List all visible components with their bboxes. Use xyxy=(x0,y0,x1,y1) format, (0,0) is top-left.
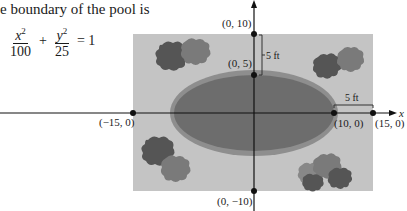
point-bottom xyxy=(251,188,257,194)
point-right xyxy=(370,110,376,116)
label-pool-right: (10, 0) xyxy=(334,117,364,130)
pool-diagram: 5 ft 5 ft (0, 10) (0, 5) (−15, 0) (10, 0… xyxy=(0,0,407,211)
label-top: (0, 10) xyxy=(222,17,252,30)
point-pool-top xyxy=(251,72,257,78)
point-pool-right xyxy=(331,110,337,116)
vertical-gap-label: 5 ft xyxy=(266,50,280,61)
horizontal-gap-label: 5 ft xyxy=(345,92,359,103)
label-left: (−15, 0) xyxy=(99,116,135,129)
y-axis-arrow-icon xyxy=(251,0,257,8)
x-axis-label: x xyxy=(398,107,404,119)
point-top xyxy=(251,31,257,37)
label-bottom: (0, −10) xyxy=(217,195,253,208)
x-axis-arrow-icon xyxy=(389,110,397,116)
label-pool-top: (0, 5) xyxy=(228,57,252,70)
